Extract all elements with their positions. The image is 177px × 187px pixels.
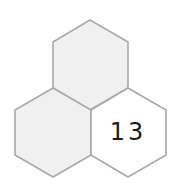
- hex-right-label: 13: [100, 118, 156, 146]
- hexagon-cluster: [0, 0, 177, 187]
